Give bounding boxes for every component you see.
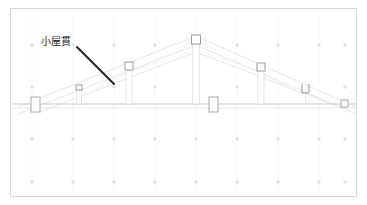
grid-tick xyxy=(343,43,347,47)
left-post-2-shaft xyxy=(126,70,132,104)
grid-tick xyxy=(153,137,157,141)
grid-tick xyxy=(194,180,198,184)
left-post-1-shaft xyxy=(77,90,82,104)
grid-tick xyxy=(235,43,239,47)
grid-tick xyxy=(276,43,280,47)
grid-tick xyxy=(112,43,116,47)
grid-tick xyxy=(235,85,239,89)
right-post-2-cap xyxy=(257,63,265,71)
grid-tick xyxy=(71,180,75,184)
right-upper-rafter xyxy=(196,36,356,107)
grid-tick xyxy=(30,180,34,184)
right-inner-rafter xyxy=(196,52,352,112)
grid-tick-marks xyxy=(30,43,347,184)
left-column xyxy=(31,97,40,112)
grid-tick xyxy=(343,85,347,89)
grid-tick xyxy=(317,180,321,184)
right-post-1-u-bracket xyxy=(302,84,309,104)
ridge-post-shaft xyxy=(193,44,200,104)
tie-beams xyxy=(12,104,356,108)
left-post-2-cap xyxy=(125,62,133,70)
cad-drawing-canvas: 小屋貫 xyxy=(0,0,367,205)
right-post-2-shaft xyxy=(258,70,264,104)
grid-tick xyxy=(112,180,116,184)
construction-grid-verticals xyxy=(32,14,319,192)
grid-tick xyxy=(30,85,34,89)
grid-tick xyxy=(153,180,157,184)
grid-tick xyxy=(276,180,280,184)
grid-tick xyxy=(194,137,198,141)
grid-tick xyxy=(30,137,34,141)
center-column xyxy=(209,97,218,112)
grid-tick xyxy=(317,137,321,141)
annotation-label-koyanuki: 小屋貫 xyxy=(41,36,71,47)
grid-tick xyxy=(235,180,239,184)
grid-tick xyxy=(112,137,116,141)
grid-tick xyxy=(317,43,321,47)
grid-tick xyxy=(343,137,347,141)
truss-section-drawing xyxy=(0,0,367,205)
grid-tick xyxy=(30,43,34,47)
grid-tick xyxy=(71,137,75,141)
left-post-1-cap xyxy=(76,85,82,90)
grid-tick xyxy=(153,43,157,47)
left-inner-rafter xyxy=(40,52,196,112)
right-column xyxy=(341,100,348,107)
grid-tick xyxy=(112,85,116,89)
annotation-leader-line xyxy=(77,47,114,84)
grid-tick xyxy=(343,180,347,184)
grid-tick xyxy=(71,43,75,47)
grid-tick xyxy=(153,85,157,89)
grid-tick xyxy=(235,137,239,141)
grid-tick xyxy=(276,137,280,141)
ridge-post-cap xyxy=(192,35,201,44)
